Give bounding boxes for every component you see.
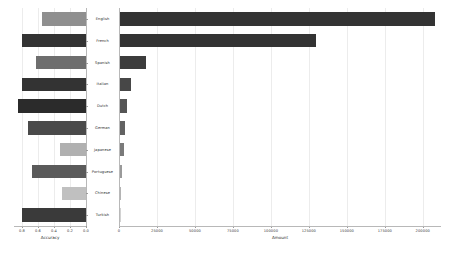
- bar-right-italian: [119, 78, 131, 92]
- right-tick-label: 100000: [264, 229, 278, 233]
- bar-left-french: [22, 34, 86, 48]
- bar-right-english: [119, 12, 435, 26]
- bar-left-japanese: [60, 143, 86, 157]
- left-tick-label: 0.4: [51, 229, 57, 233]
- category-label-german: German: [95, 126, 110, 130]
- left-tick-label: 0.6: [35, 229, 41, 233]
- right-gridline: [347, 8, 348, 226]
- left-axis-title: Accuracy: [41, 235, 60, 240]
- right-tick-label: 200000: [416, 229, 430, 233]
- bar-left-german: [28, 121, 86, 135]
- category-tick-english: [86, 19, 88, 20]
- bar-right-french: [119, 34, 316, 48]
- bar-left-english: [42, 12, 86, 26]
- category-tick-german: [86, 128, 88, 129]
- category-tick-chinese: [86, 193, 88, 194]
- category-label-spanish: Spanish: [95, 61, 110, 65]
- right-gridline: [423, 8, 424, 226]
- right-axis-left-spine: [119, 8, 120, 226]
- bar-left-turkish: [22, 208, 86, 222]
- right-tick-label: 175000: [378, 229, 392, 233]
- category-tick-dutch: [86, 106, 88, 107]
- left-axis-bottom-spine: [14, 226, 86, 227]
- category-tick-spanish: [86, 63, 88, 64]
- category-tick-turkish: [86, 215, 88, 216]
- figure-canvas: 0.80.60.40.20.0AccuracyEnglishFrenchSpan…: [0, 0, 449, 260]
- bar-left-italian: [22, 78, 86, 92]
- category-tick-french: [86, 41, 88, 42]
- category-tick-italian: [86, 84, 88, 85]
- bar-left-portuguese: [32, 165, 86, 179]
- category-label-french: French: [96, 39, 109, 43]
- category-label-chinese: Chinese: [95, 191, 110, 195]
- right-plot-area: [119, 8, 441, 226]
- category-label-italian: Italian: [97, 82, 109, 86]
- bar-left-dutch: [18, 99, 86, 113]
- right-tick-label: 0: [118, 229, 120, 233]
- bar-right-dutch: [119, 99, 127, 113]
- category-tick-portuguese: [86, 172, 88, 173]
- left-tick-label: 0.2: [67, 229, 73, 233]
- category-label-english: English: [96, 17, 110, 21]
- bar-right-spanish: [119, 56, 146, 70]
- left-tick-label: 0.8: [19, 229, 25, 233]
- left-plot-area: [14, 8, 86, 226]
- right-tick-label: 50000: [189, 229, 201, 233]
- right-gridline: [385, 8, 386, 226]
- left-tick-label: 0.0: [83, 229, 89, 233]
- right-tick-label: 125000: [302, 229, 316, 233]
- bar-left-chinese: [62, 187, 86, 201]
- category-label-japanese: Japanese: [94, 148, 111, 152]
- right-panel-amount: [119, 8, 441, 226]
- left-panel-accuracy: [14, 8, 86, 226]
- right-tick-label: 25000: [151, 229, 163, 233]
- right-axis-title: Amount: [272, 235, 288, 240]
- category-label-dutch: Dutch: [97, 104, 108, 108]
- right-tick-label: 150000: [340, 229, 354, 233]
- bar-left-spanish: [36, 56, 86, 70]
- category-tick-japanese: [86, 150, 88, 151]
- category-label-turkish: Turkish: [96, 213, 109, 217]
- right-tick-label: 75000: [227, 229, 239, 233]
- right-axis-bottom-spine: [119, 226, 441, 227]
- left-tick-mark: [86, 226, 87, 228]
- category-label-portuguese: Portuguese: [92, 170, 113, 174]
